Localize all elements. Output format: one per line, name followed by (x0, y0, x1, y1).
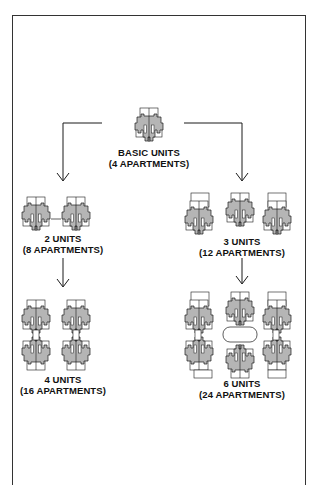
node-three-units-label: 3 UNITS (12 APARTMENTS) (192, 236, 292, 258)
node-four-units-graphic (22, 300, 90, 370)
node-two-units-graphic (22, 197, 90, 231)
node-six-units-label: 6 UNITS (24 APARTMENTS) (192, 378, 292, 400)
node-title: 3 UNITS (192, 236, 292, 247)
node-subtitle: (4 APARTMENTS) (99, 158, 199, 169)
node-basic-units-graphic (135, 108, 163, 142)
node-six-units-graphic (185, 292, 291, 378)
node-title: 6 UNITS (192, 378, 292, 389)
connector-three-to-six (236, 258, 248, 284)
node-subtitle: (12 APARTMENTS) (192, 247, 292, 258)
node-subtitle: (8 APARTMENTS) (13, 244, 113, 255)
node-subtitle: (16 APARTMENTS) (13, 385, 113, 396)
node-title: BASIC UNITS (99, 147, 199, 158)
node-three-units-graphic (185, 193, 291, 235)
node-subtitle: (24 APARTMENTS) (192, 389, 292, 400)
node-four-units-label: 4 UNITS (16 APARTMENTS) (13, 374, 113, 396)
node-title: 2 UNITS (13, 233, 113, 244)
connector-basic-to-two (57, 123, 102, 181)
node-basic-units-label: BASIC UNITS (4 APARTMENTS) (99, 147, 199, 169)
node-title: 4 UNITS (13, 374, 113, 385)
connector-two-to-four (57, 258, 69, 287)
node-two-units-label: 2 UNITS (8 APARTMENTS) (13, 233, 113, 255)
